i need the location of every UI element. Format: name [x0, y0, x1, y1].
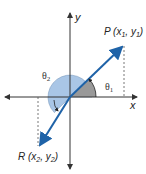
- theta2-label: θ2: [42, 70, 51, 83]
- x-axis-label: x: [129, 99, 136, 111]
- point-p-label: P (x1, y1): [104, 26, 143, 38]
- vector-to-p: [70, 47, 122, 97]
- point-r-label: R (x2, y2): [18, 151, 58, 163]
- y-axis-label: y: [74, 11, 82, 23]
- theta1-label: θ1: [105, 81, 114, 94]
- coordinate-diagram: y x P (x1, y1) R (x2, y2) θ1 θ2: [0, 0, 146, 174]
